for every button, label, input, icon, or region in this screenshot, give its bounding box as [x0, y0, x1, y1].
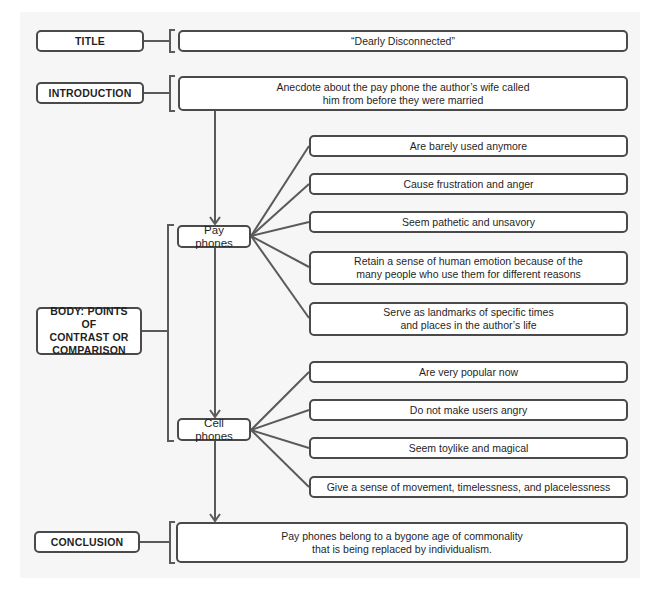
pay-phone-point-text: Are barely used anymore	[410, 140, 527, 153]
pay-phones-label: Pay phones	[185, 224, 243, 250]
pay-phone-point-line-2: and places in the author’s life	[400, 319, 536, 332]
conclusion-line-1: Pay phones belong to a bygone age of com…	[281, 530, 523, 543]
body-label-line-2: CONTRAST OR	[49, 331, 128, 344]
cell-phone-point-text: Seem toylike and magical	[409, 442, 529, 455]
introduction-line-1: Anecdote about the pay phone the author’…	[277, 81, 530, 94]
cell-phone-point-text: Do not make users angry	[410, 404, 527, 417]
pay-phone-point: Are barely used anymore	[309, 135, 628, 157]
pay-phone-point: Seem pathetic and unsavory	[309, 211, 628, 233]
title-content-text: “Dearly Disconnected”	[351, 35, 455, 48]
conclusion-label-text: CONCLUSION	[51, 536, 124, 549]
cell-phones-node: Cell phones	[177, 418, 251, 441]
pay-phone-point-text: Seem pathetic and unsavory	[402, 216, 535, 229]
cell-phone-point: Do not make users angry	[309, 399, 628, 421]
cell-phone-point-text: Are very popular now	[419, 366, 518, 379]
title-label: TITLE	[36, 30, 144, 52]
title-content: “Dearly Disconnected”	[178, 30, 628, 52]
body-label-line-3: COMPARISON	[52, 344, 126, 357]
introduction-label-text: INTRODUCTION	[49, 87, 132, 100]
title-label-text: TITLE	[75, 35, 105, 48]
body-label: BODY: POINTS OF CONTRAST OR COMPARISON	[36, 307, 142, 355]
pay-phone-point-text: Cause frustration and anger	[403, 178, 533, 191]
introduction-label: INTRODUCTION	[36, 82, 144, 104]
cell-phone-point: Seem toylike and magical	[309, 437, 628, 459]
introduction-line-2: him from before they were married	[323, 94, 483, 107]
pay-phone-point: Retain a sense of human emotion because …	[309, 251, 628, 285]
pay-phone-point: Cause frustration and anger	[309, 173, 628, 195]
conclusion-content: Pay phones belong to a bygone age of com…	[176, 522, 628, 563]
pay-phone-point-line-1: Serve as landmarks of specific times	[383, 306, 553, 319]
conclusion-label: CONCLUSION	[34, 531, 140, 553]
cell-phone-point: Are very popular now	[309, 361, 628, 383]
body-label-line-1: BODY: POINTS OF	[44, 305, 134, 331]
introduction-content: Anecdote about the pay phone the author’…	[178, 76, 628, 111]
pay-phone-point-line-1: Retain a sense of human emotion because …	[354, 255, 583, 268]
cell-phone-point-text: Give a sense of movement, timelessness, …	[327, 481, 611, 494]
cell-phone-point: Give a sense of movement, timelessness, …	[309, 476, 628, 498]
pay-phones-node: Pay phones	[177, 225, 251, 248]
pay-phone-point: Serve as landmarks of specific times and…	[309, 302, 628, 336]
pay-phone-point-line-2: many people who use them for different r…	[356, 268, 581, 281]
cell-phones-label: Cell phones	[185, 417, 243, 443]
conclusion-line-2: that is being replaced by individualism.	[312, 543, 492, 556]
